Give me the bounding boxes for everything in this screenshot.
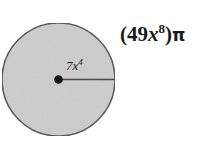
center-point-dot (54, 75, 63, 84)
answer-variable: x (148, 22, 159, 46)
answer-open-paren: ( (120, 22, 127, 46)
circle-diagram (0, 0, 122, 144)
radius-label: 7x4 (66, 55, 83, 73)
radius-exponent: 4 (78, 57, 83, 67)
pi-symbol: π (172, 25, 185, 45)
answer-close-paren: ) (165, 22, 172, 46)
answer-coefficient: 49 (127, 22, 148, 46)
answer-expression: (49x8)π (120, 17, 185, 47)
math-figure-root: 11. 7x4 (49x8)π (0, 0, 199, 144)
